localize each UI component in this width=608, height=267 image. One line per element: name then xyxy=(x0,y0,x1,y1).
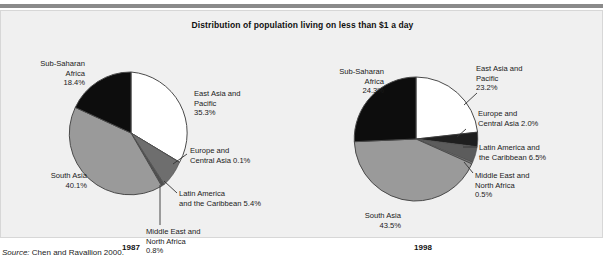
source-note: Source: Chen and Ravallion 2000. xyxy=(2,248,124,257)
slice-east-asia-pacific xyxy=(416,77,478,139)
label-latin-america-caribbean-1998: Latin America and the Caribbean 6.5% xyxy=(479,143,597,162)
label-latin-america-caribbean-1987: Latin America and the Caribbean 5.4% xyxy=(179,189,297,208)
pie-chart-1998: Sub-Saharan Africa 24.3% East Asia and P… xyxy=(301,21,604,249)
top-divider-rule xyxy=(0,4,603,8)
label-east-asia-pacific-1987: East Asia and Pacific 35.3% xyxy=(194,89,294,118)
source-text: Chen and Ravallion 2000. xyxy=(30,248,124,257)
label-sub-saharan-africa-1987: Sub-Saharan Africa 18.4% xyxy=(7,59,85,88)
pie-1987-graphic xyxy=(1,21,301,249)
year-label-1998: 1998 xyxy=(393,243,453,252)
leader-line-latin-america xyxy=(164,181,177,193)
label-sub-saharan-africa-1998: Sub-Saharan Africa 24.3% xyxy=(306,67,384,96)
label-east-asia-pacific-1998: East Asia and Pacific 23.2% xyxy=(476,64,576,93)
leader-line-east-asia xyxy=(464,93,477,105)
pie-chart-1987: Sub-Saharan Africa 18.4% East Asia and P… xyxy=(1,21,301,249)
label-europe-central-asia-1998: Europe and Central Asia 2.0% xyxy=(478,109,590,128)
label-south-asia-1987: South Asia 40.1% xyxy=(9,171,87,190)
label-south-asia-1998: South Asia 43.5% xyxy=(313,211,401,230)
label-middle-east-north-africa-1987: Middle East and North Africa 0.8% xyxy=(146,227,256,256)
source-label: Source: xyxy=(2,248,30,257)
label-middle-east-north-africa-1998: Middle East and North Africa 0.5% xyxy=(475,171,587,200)
label-europe-central-asia-1987: Europe and Central Asia 0.1% xyxy=(190,146,296,165)
figure-panel: Distribution of population living on les… xyxy=(0,10,603,238)
